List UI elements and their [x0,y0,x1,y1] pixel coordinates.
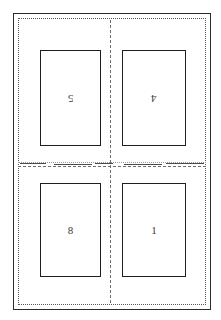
layout-sheet: 5 4 8 1 [0,0,221,320]
divider-tick-2 [54,164,92,165]
divider-tick-5 [166,163,204,164]
panel-top-left[interactable]: 5 [40,50,101,146]
divider-tick-4 [124,164,162,165]
divider-tick-1 [20,163,46,164]
vertical-fold-guide [110,20,111,303]
panel-top-right[interactable]: 4 [122,50,186,146]
panel-label-bottom-left: 8 [68,225,74,236]
panel-bottom-right[interactable]: 1 [122,183,186,277]
panel-label-bottom-right: 1 [151,225,157,236]
horizontal-fold-guide [18,166,206,167]
panel-label-top-left: 5 [68,93,74,104]
panel-bottom-left[interactable]: 8 [40,183,101,277]
panel-label-top-right: 4 [151,93,157,104]
